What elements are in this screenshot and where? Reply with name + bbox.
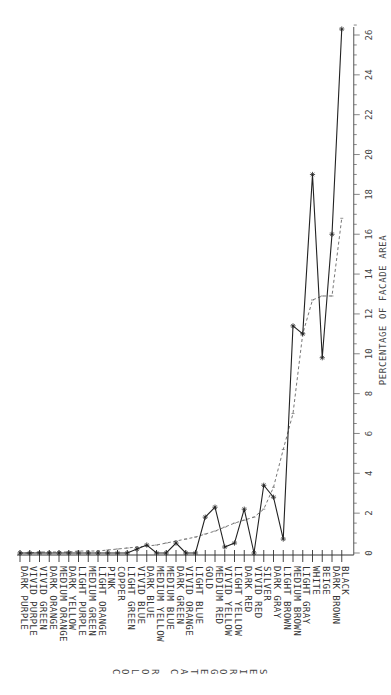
x-axis-title-letter: L (130, 669, 140, 675)
category-label: DARK PURPLE (19, 566, 30, 630)
data-point-star-icon (203, 515, 208, 520)
category-label: LIGHT GREEN (126, 566, 137, 630)
data-point-star-icon (173, 540, 178, 545)
x-axis-title-letter: E (199, 669, 209, 675)
category-label: DARK BLUE (145, 566, 156, 618)
data-point-star-icon (125, 550, 130, 555)
data-point-star-icon (86, 550, 91, 555)
category-label: VIVID ORANGE (184, 566, 195, 636)
data-point-star-icon (144, 542, 149, 547)
category-label: LIGHT ORANGE (97, 566, 108, 636)
category-label: LIGHT BROWN (282, 566, 293, 630)
category-label: VIVID PURPLE (28, 566, 39, 636)
category-label: MEDIUM ORANGE (58, 566, 69, 642)
data-point-star-icon (222, 544, 227, 549)
x-axis-title-letter: O (120, 669, 130, 675)
data-point-star-icon (251, 550, 256, 555)
category-label: VIVID BLUE (136, 566, 147, 624)
category-label: DARK YELLOW (67, 566, 78, 630)
data-point-star-icon (27, 550, 32, 555)
x-axis-title-letter: O (140, 669, 150, 675)
y-tick-label: 16 (364, 229, 374, 240)
data-point-star-icon (212, 505, 217, 510)
x-axis-title-letter: O (218, 669, 228, 675)
category-label: MEDIUM GREEN (87, 566, 98, 636)
category-label: VIVID GREEN (38, 566, 49, 630)
y-tick-label: 14 (364, 269, 374, 280)
data-point-star-icon (47, 550, 52, 555)
category-label: BLACK (340, 566, 351, 595)
y-axis-title: PERCENTAGE OF FACADE AREA (378, 235, 388, 385)
category-label: LIGHT BLUE (194, 566, 205, 624)
data-point-star-icon (66, 550, 71, 555)
data-point-star-icon (300, 331, 305, 336)
data-point-star-icon (310, 172, 315, 177)
data-point-star-icon (134, 546, 139, 551)
y-tick-label: 6 (364, 431, 374, 436)
category-label: DARK RED (243, 566, 254, 613)
category-label: VIVID YELLOW (223, 566, 234, 636)
data-point-star-icon (329, 232, 334, 237)
data-point-star-icon (193, 550, 198, 555)
y-tick-label: 22 (364, 109, 374, 120)
category-label: WHITE (311, 566, 322, 595)
x-axis-title-letter: I (238, 669, 248, 675)
category-label: DARK BROWN (331, 566, 342, 624)
category-label: MEDIUM BLUE (165, 566, 176, 630)
x-axis-title-letter: T (189, 669, 199, 675)
x-axis-title-letter: C (111, 669, 121, 675)
data-point-star-icon (17, 550, 22, 555)
trend-line (19, 218, 344, 553)
data-point-star-icon (271, 495, 276, 500)
category-label: SILVER (262, 566, 273, 601)
category-labels: DARK PURPLEVIVID PURPLEVIVID GREENDARK O… (19, 566, 352, 642)
data-point-star-icon (56, 550, 61, 555)
observed-line (17, 26, 344, 555)
y-tick-label: 20 (364, 149, 374, 160)
data-point-star-icon (105, 550, 110, 555)
category-label: GOLD (204, 566, 215, 589)
y-tick-label: 26 (364, 30, 374, 41)
category-label: BEIGE (321, 566, 332, 595)
data-point-star-icon (339, 26, 344, 31)
y-tick-label: 4 (364, 471, 374, 476)
category-label: LIGHT YELLOW (233, 566, 244, 636)
data-point-star-icon (320, 355, 325, 360)
x-axis-title-letter: G (209, 669, 219, 675)
category-label: DARK GREEN (175, 566, 186, 624)
y-tick-label: 8 (364, 391, 374, 396)
data-point-star-icon (37, 550, 42, 555)
data-point-star-icon (154, 550, 159, 555)
data-point-star-icon (183, 550, 188, 555)
category-label: MEDIUM RED (214, 566, 225, 624)
data-point-star-icon (115, 550, 120, 555)
data-point-star-icon (232, 540, 237, 545)
category-label: DARK GRAY (272, 566, 283, 619)
category-label: MEDIUM BROWN (292, 566, 303, 636)
data-point-star-icon (95, 550, 100, 555)
category-label: PINK (106, 566, 117, 589)
data-point-star-icon (281, 536, 286, 541)
data-point-star-icon (76, 550, 81, 555)
category-label: VIVID RED (253, 566, 264, 618)
y-tick-label: 10 (364, 348, 374, 359)
x-axis-title-letter: R (228, 669, 238, 675)
y-tick-label: 0 (364, 550, 374, 555)
x-axis-title-letter: S (258, 669, 268, 675)
category-label: LIGHT GRAY (301, 566, 312, 624)
category-label: COPPER (116, 566, 127, 601)
category-label: DARK ORANGE (48, 566, 59, 630)
x-axis-title-letter: R (150, 669, 160, 675)
data-point-star-icon (242, 507, 247, 512)
x-axis-title-letter: C (169, 669, 179, 675)
value-axis: 02468101214161820222426 (354, 25, 375, 556)
data-point-star-icon (290, 323, 295, 328)
category-label: LIGHT PURPLE (77, 566, 88, 636)
x-axis-title-letter: A (179, 669, 189, 675)
data-point-star-icon (261, 483, 266, 488)
data-point-star-icon (164, 550, 169, 555)
y-tick-label: 2 (364, 510, 374, 515)
y-tick-label: 24 (364, 69, 374, 80)
category-label: MEDIUM YELLOW (155, 566, 166, 642)
y-tick-label: 12 (364, 309, 374, 320)
